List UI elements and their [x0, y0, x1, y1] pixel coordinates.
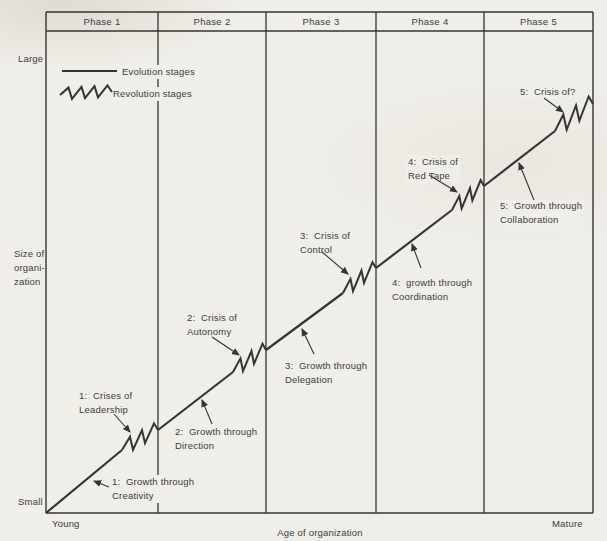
x-axis-mature-label: Mature [552, 517, 583, 531]
y-axis-small-label: Small [18, 495, 43, 509]
legend-evolution-label: Evolution stages [120, 65, 197, 79]
greiner-growth-diagram: Phase 1Phase 2Phase 3Phase 4Phase 5 Larg… [0, 0, 607, 541]
label-crisis-red-tape: 4: Crisis of Red Tape [406, 155, 460, 183]
label-growth-delegation: 3: Growth through Delegation [283, 359, 369, 387]
label-growth-direction: 2: Growth through Direction [173, 425, 259, 453]
label-growth-coordination: 4: growth through Coordination [390, 276, 474, 304]
legend-revolution-label: Revolution stages [111, 87, 194, 101]
y-axis-title: Size of organi- zation [14, 247, 45, 289]
label-growth-creativity: 1: Growth through Creativity [110, 475, 196, 503]
phase-header-5: Phase 5 [484, 12, 593, 31]
label-growth-collaboration: 5: Growth through Collaboration [498, 199, 584, 227]
phase-header-1: Phase 1 [46, 12, 158, 31]
x-axis-title: Age of organization [250, 526, 390, 540]
phase-header-2: Phase 2 [158, 12, 266, 31]
y-axis-large-label: Large [18, 52, 43, 66]
phase-header-4: Phase 4 [376, 12, 484, 31]
phase-header-3: Phase 3 [266, 12, 376, 31]
label-crisis-control: 3: Crisis of Control [298, 229, 352, 257]
label-crisis-of-question: 5: Crisis of? [518, 85, 578, 99]
label-crises-leadership: 1: Crises of Leadership [77, 389, 134, 417]
label-crisis-autonomy: 2: Crisis of Autonomy [185, 311, 239, 339]
diagram-frame-layer [0, 0, 607, 541]
x-axis-young-label: Young [52, 517, 80, 531]
